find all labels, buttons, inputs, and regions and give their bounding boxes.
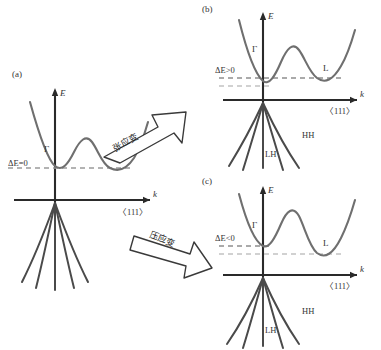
gamma-label-a: Γ [44,144,49,154]
k-axis-arrowhead-c [350,272,357,278]
E-axis-arrowhead-a [52,88,58,96]
panel-b-tag: (b) [202,4,213,14]
valence-band-1-a [22,203,55,282]
l-valley-label-c: L [323,238,329,248]
lh-label-c: LH [265,325,276,335]
gamma-label-b: Γ [252,44,257,54]
axis-label-E-c: E [268,185,274,195]
panel-c-plot [195,172,381,350]
direction-label-c: 〈111〉 [325,279,355,291]
k-axis-arrowhead-b [350,97,357,103]
panel-b-plot [195,0,381,175]
axis-label-k-c: k [360,264,364,274]
hh-label-b: HH [302,130,314,140]
direction-label-b: 〈111〉 [325,104,355,116]
valence-band-hh-a [55,203,88,282]
k-axis-arrowhead-a [143,197,150,203]
arrow-tensile-outline [104,112,186,163]
arrow-tensile-shape [100,95,205,167]
axis-label-k-b: k [360,89,364,99]
panel-b: (b) E k 〈111〉 Γ L ΔE>0 HH LH [195,0,381,175]
axis-label-k-a: k [153,189,157,199]
l-valley-label-b: L [323,63,329,73]
E-axis-arrowhead-c [260,186,266,194]
hh-label-c: HH [302,306,314,316]
E-axis-arrowhead-b [260,12,266,20]
delta-E-label-c: ΔE<0 [215,233,235,243]
arrow-tensile: 张应变 [100,95,205,167]
delta-E-label-b: ΔE>0 [215,65,235,75]
axis-label-E-a: E [60,88,66,98]
panel-c: (c) E k 〈111〉 Γ L ΔE<0 HH LH [195,172,381,350]
lh-label-b: LH [265,149,276,159]
axis-label-E-b: E [268,11,274,21]
panel-c-tag: (c) [202,176,212,186]
delta-E-label-a: ΔE=0 [8,158,28,168]
panel-a-tag: (a) [12,69,22,79]
valence-band-1-c [227,278,263,344]
gamma-label-c: Γ [252,220,257,230]
valence-band-1-b [229,103,263,166]
direction-label-a: 〈111〉 [118,205,148,217]
